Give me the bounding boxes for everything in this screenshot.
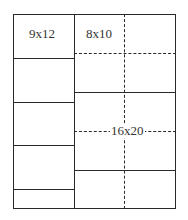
right-row-line-2 (74, 170, 176, 171)
label-16x20: 16x20 (110, 124, 145, 138)
print-layout-diagram: 9x12 8x10 16x20 (0, 0, 188, 220)
left-row-line-1 (13, 58, 74, 59)
left-row-line-2 (13, 102, 74, 103)
dashed-horizontal-line-1 (74, 53, 176, 54)
dashed-vertical-divider (124, 14, 125, 209)
right-row-line-1 (74, 92, 176, 93)
label-8x10: 8x10 (86, 27, 112, 41)
column-divider (74, 14, 75, 209)
label-9x12: 9x12 (29, 27, 55, 41)
left-row-line-4 (13, 189, 74, 190)
outer-frame (13, 14, 176, 209)
left-row-line-3 (13, 145, 74, 146)
